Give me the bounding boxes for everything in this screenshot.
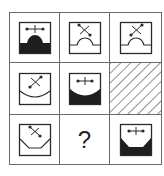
diagonal-hatch-pattern [110, 63, 161, 114]
x-backslash-icon [77, 23, 91, 36]
cell-r1-c1 [10, 13, 60, 63]
x-backslash-icon [28, 125, 41, 137]
question-mark: ? [78, 126, 91, 154]
puzzle-grid: ? [9, 12, 162, 165]
cell-r2-c3-hatched [110, 63, 161, 115]
figure-xback-bump [68, 21, 102, 55]
cell-r1-c2 [60, 13, 110, 63]
x-slash-icon [129, 23, 143, 36]
horizontal-cross-icon [25, 25, 44, 33]
figure-cross-bump-filled [18, 21, 52, 55]
horizontal-cross-icon [76, 77, 93, 85]
cell-r3-c2-unknown[interactable]: ? [60, 115, 110, 164]
x-slash-icon [28, 75, 42, 88]
cell-r3-c1 [10, 115, 60, 164]
figure-cross-arc-filled [68, 72, 102, 106]
cell-r2-c2 [60, 63, 110, 115]
figure-xslash-arc [18, 72, 52, 106]
figure-xslash-bump [119, 21, 153, 55]
cell-r3-c3 [110, 115, 161, 164]
figure-cross-trapezoid-filled [119, 123, 153, 157]
cell-r2-c1 [10, 63, 60, 115]
cell-r1-c3 [110, 13, 161, 63]
horizontal-cross-icon [127, 127, 144, 135]
figure-xback-trapezoid [18, 123, 52, 157]
